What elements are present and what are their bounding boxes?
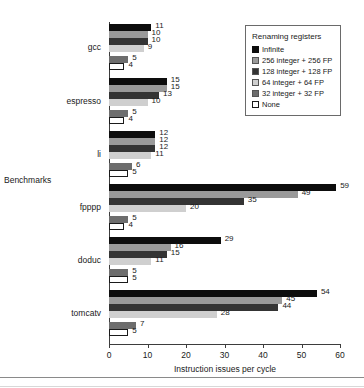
- x-tick-label-20: 20: [174, 350, 198, 360]
- legend-label: 64 integer + 64 FP: [262, 77, 324, 88]
- y-tick-label-fpppp: fpppp: [80, 202, 101, 212]
- bar-gcc-4: [109, 56, 128, 63]
- x-tick-40: [263, 344, 264, 348]
- bar-value-label: 4: [128, 60, 132, 69]
- bar-value-label: 15: [171, 248, 180, 257]
- bar-li-0: [109, 131, 155, 138]
- bar-value-label: 35: [248, 195, 257, 204]
- bar-value-label: 44: [282, 301, 291, 310]
- x-tick-label-0: 0: [97, 350, 121, 360]
- bar-doduc-1: [109, 244, 171, 251]
- bar-gcc-5: [109, 63, 124, 70]
- x-tick-50: [302, 344, 303, 348]
- bar-tomcatv-2: [109, 304, 278, 311]
- legend-label: 128 integer + 128 FP: [262, 66, 332, 77]
- legend-label: 32 integer + 32 FP: [262, 88, 324, 99]
- bar-espresso-4: [109, 110, 128, 117]
- x-tick-10: [148, 344, 149, 348]
- legend-item-1[interactable]: 256 integer + 256 FP: [252, 55, 335, 66]
- legend-label: Infinite: [262, 44, 284, 55]
- bar-tomcatv-3: [109, 311, 217, 318]
- bar-li-2: [109, 145, 155, 152]
- legend-title: Renaming registers: [252, 31, 335, 42]
- bar-li-1: [109, 138, 155, 145]
- x-axis-title: Instruction issues per cycle: [109, 364, 341, 374]
- x-tick-label-10: 10: [136, 350, 160, 360]
- bar-espresso-0: [109, 78, 167, 85]
- y-tick-label-espresso: espresso: [67, 96, 102, 106]
- bar-li-3: [109, 152, 151, 159]
- y-axis-title: Benchmarks: [4, 175, 51, 185]
- bar-value-label: 54: [321, 287, 330, 296]
- bar-value-label: 7: [140, 319, 144, 328]
- bar-fpppp-5: [109, 223, 124, 230]
- bar-tomcatv-5: [109, 329, 128, 336]
- bar-value-label: 20: [190, 202, 199, 211]
- y-tick-label-li: li: [97, 149, 101, 159]
- x-tick-label-50: 50: [290, 350, 314, 360]
- bar-value-label: 5: [132, 167, 136, 176]
- bar-li-4: [109, 163, 132, 170]
- bar-value-label: 59: [340, 181, 349, 190]
- bar-doduc-3: [109, 258, 151, 265]
- bar-value-label: 10: [152, 96, 161, 105]
- bar-value-label: 4: [128, 114, 132, 123]
- bar-doduc-5: [109, 276, 128, 283]
- bar-value-label: 29: [225, 234, 234, 243]
- bar-doduc-4: [109, 269, 128, 276]
- bar-value-label: 49: [302, 188, 311, 197]
- legend-item-0[interactable]: Infinite: [252, 44, 335, 55]
- bar-value-label: 5: [132, 273, 136, 282]
- footer-divider-secondary: [0, 386, 364, 387]
- x-tick-20: [186, 344, 187, 348]
- bar-value-label: 28: [221, 308, 230, 317]
- bar-value-label: 15: [171, 82, 180, 91]
- bar-gcc-3: [109, 45, 144, 52]
- bar-value-label: 4: [128, 220, 132, 229]
- bar-tomcatv-1: [109, 297, 282, 304]
- x-tick-30: [225, 344, 226, 348]
- legend-label: 256 integer + 256 FP: [262, 55, 332, 66]
- x-tick-label-40: 40: [251, 350, 275, 360]
- bar-gcc-0: [109, 24, 151, 31]
- legend-item-3[interactable]: 64 integer + 64 FP: [252, 77, 335, 88]
- x-tick-0: [109, 344, 110, 348]
- legend-item-list: Infinite256 integer + 256 FP128 integer …: [252, 44, 335, 110]
- bar-value-label: 10: [152, 35, 161, 44]
- bar-doduc-0: [109, 237, 221, 244]
- x-tick-label-60: 60: [328, 350, 352, 360]
- bar-chart: 1110109541515131054121212116559493520542…: [0, 0, 364, 388]
- bar-fpppp-4: [109, 216, 128, 223]
- bar-value-label: 11: [155, 149, 163, 158]
- bar-gcc-1: [109, 31, 148, 38]
- legend: Renaming registers Infinite256 integer +…: [245, 25, 341, 116]
- legend-item-5[interactable]: None: [252, 99, 335, 110]
- y-tick-label-doduc: doduc: [78, 255, 101, 265]
- bar-gcc-2: [109, 38, 148, 45]
- legend-swatch-icon: [252, 46, 259, 53]
- legend-swatch-icon: [252, 101, 259, 108]
- bar-li-5: [109, 170, 128, 177]
- legend-swatch-icon: [252, 68, 259, 75]
- bar-espresso-3: [109, 99, 148, 106]
- bar-value-label: 9: [148, 42, 152, 51]
- bar-value-label: 11: [155, 255, 163, 264]
- bar-espresso-1: [109, 85, 167, 92]
- legend-label: None: [262, 99, 280, 110]
- footer-divider: [0, 377, 364, 378]
- legend-swatch-icon: [252, 79, 259, 86]
- legend-item-2[interactable]: 128 integer + 128 FP: [252, 66, 335, 77]
- x-tick-label-30: 30: [213, 350, 237, 360]
- y-tick-label-tomcatv: tomcatv: [71, 308, 101, 318]
- bar-value-label: 5: [132, 326, 136, 335]
- bar-fpppp-1: [109, 191, 298, 198]
- y-tick-label-gcc: gcc: [88, 42, 101, 52]
- legend-item-4[interactable]: 32 integer + 32 FP: [252, 88, 335, 99]
- bar-fpppp-3: [109, 205, 186, 212]
- x-tick-60: [340, 344, 341, 348]
- bar-fpppp-2: [109, 198, 244, 205]
- legend-swatch-icon: [252, 57, 259, 64]
- bar-value-label: 13: [163, 89, 172, 98]
- legend-swatch-icon: [252, 90, 259, 97]
- bar-espresso-5: [109, 117, 124, 124]
